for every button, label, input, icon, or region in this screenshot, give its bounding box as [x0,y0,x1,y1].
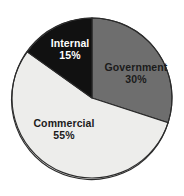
pie-label-internal-value: 15% [30,49,110,61]
pie-label-government-name: Government [97,61,175,73]
pie-chart: Internal 15% Government 30% Commercial 5… [0,0,184,196]
pie-label-internal: Internal 15% [30,37,110,62]
pie-label-commercial-value: 55% [23,129,105,141]
pie-label-commercial: Commercial 55% [23,117,105,142]
pie-chart-svg [0,0,184,196]
pie-label-government-value: 30% [97,73,175,85]
pie-label-commercial-name: Commercial [23,117,105,129]
pie-label-internal-name: Internal [30,37,110,49]
pie-label-government: Government 30% [97,61,175,86]
